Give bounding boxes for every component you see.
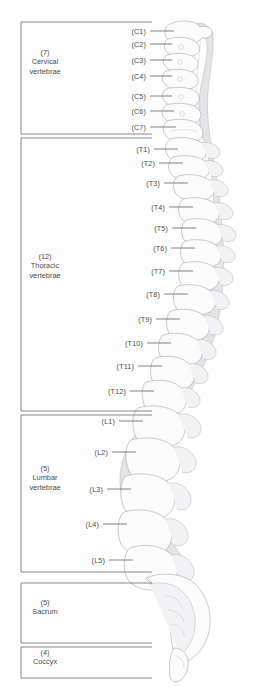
vertebra-label-T2: (T2) xyxy=(95,159,155,168)
region-label-sacrum: (5) Sacrum xyxy=(5,598,85,617)
vertebra-label-T11: (T11) xyxy=(74,362,134,371)
vertebra-label-C7: (C7) xyxy=(86,123,146,132)
vertebra-label-T12: (T12) xyxy=(66,387,126,396)
region-bracket-lumbar xyxy=(21,415,152,572)
vertebra-label-L4: (L4) xyxy=(39,520,99,529)
vertebra-label-T9: (T9) xyxy=(92,315,152,324)
spine-diagram: (7) Cervical vertebrae(12) Thoracic vert… xyxy=(0,0,257,687)
vertebra-label-T4: (T4) xyxy=(105,203,165,212)
vertebra-label-C4: (C4) xyxy=(86,72,146,81)
vertebra-label-L2: (L2) xyxy=(48,448,108,457)
vertebra-label-C5: (C5) xyxy=(86,92,146,101)
vertebra-label-L3: (L3) xyxy=(43,485,103,494)
vertebra-label-T7: (T7) xyxy=(105,267,165,276)
vertebra-label-C1: (C1) xyxy=(86,27,146,36)
vertebra-label-T6: (T6) xyxy=(107,244,167,253)
vertebra-label-C6: (C6) xyxy=(86,107,146,116)
vertebra-label-C2: (C2) xyxy=(86,40,146,49)
vertebra-label-L1: (L1) xyxy=(55,417,115,426)
region-label-cervical: (7) Cervical vertebrae xyxy=(5,48,85,76)
region-label-coccyx: (4) Coccyx xyxy=(5,648,85,667)
vertebra-label-T3: (T3) xyxy=(100,179,160,188)
vertebra-label-L5: (L5) xyxy=(45,556,105,565)
vertebra-label-T5: (T5) xyxy=(108,224,168,233)
vertebra-label-T1: (T1) xyxy=(90,145,150,154)
region-label-thoracic: (12) Thoracic vertebrae xyxy=(5,252,85,280)
vertebra-label-T8: (T8) xyxy=(100,290,160,299)
vertebra-label-T10: (T10) xyxy=(83,339,143,348)
vertebra-label-C3: (C3) xyxy=(86,56,146,65)
